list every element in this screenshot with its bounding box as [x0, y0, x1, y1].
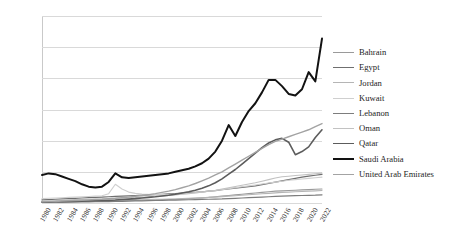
x-axis-tick-label: 2020: [304, 206, 319, 223]
legend-swatch: [333, 174, 354, 175]
legend-swatch: [333, 67, 354, 68]
x-axis-tick-label: 2000: [171, 206, 186, 223]
x-axis-tick-label: 1992: [118, 206, 133, 223]
x-axis-tick-label: 2012: [251, 206, 266, 223]
legend-item-label: Kuwait: [359, 94, 384, 103]
legend-swatch: [333, 143, 354, 144]
legend-item[interactable]: Lebanon: [333, 106, 457, 121]
x-axis-tick-label: 2022: [318, 206, 333, 223]
x-axis-tick-label: 1996: [144, 206, 159, 223]
x-axis-tick-label: 2016: [278, 206, 293, 223]
x-axis-tick-label: 1988: [91, 206, 106, 223]
series-line: [42, 39, 322, 188]
legend-item[interactable]: Saudi Arabia: [333, 151, 457, 166]
x-axis-tick-label: 1998: [158, 206, 173, 223]
x-axis-tick-label: 2008: [224, 206, 239, 223]
legend-swatch: [333, 113, 354, 114]
gridline: [42, 203, 322, 204]
x-axis-tick-label: 1984: [64, 206, 79, 223]
legend-item[interactable]: United Arab Emirates: [333, 167, 457, 182]
plot-wrapper: 1980198219841986198819901992199419961998…: [0, 0, 330, 252]
legend-item[interactable]: Oman: [333, 121, 457, 136]
chart-legend: BahrainEgyptJordanKuwaitLebanonOmanQatar…: [333, 45, 457, 182]
x-axis-tick-label: 1980: [38, 206, 53, 223]
legend-swatch: [333, 82, 354, 83]
legend-swatch: [333, 158, 354, 160]
legend-item[interactable]: Bahrain: [333, 45, 457, 60]
line-chart: 1980198219841986198819901992199419961998…: [0, 0, 457, 252]
legend-item-label: Egypt: [359, 63, 380, 72]
legend-item-label: Bahrain: [359, 48, 386, 57]
legend-item-label: Lebanon: [359, 109, 389, 118]
x-axis-tick-label: 1986: [78, 206, 93, 223]
x-axis-tick-label: 2018: [291, 206, 306, 223]
x-axis-tick-label: 2006: [211, 206, 226, 223]
legend-item[interactable]: Jordan: [333, 75, 457, 90]
x-axis-tick-label: 1982: [51, 206, 66, 223]
plot-area: 1980198219841986198819901992199419961998…: [42, 16, 322, 203]
legend-item[interactable]: Egypt: [333, 60, 457, 75]
x-axis-tick-label: 2014: [264, 206, 279, 223]
legend-item-label: Saudi Arabia: [359, 155, 404, 164]
legend-swatch: [333, 98, 354, 99]
legend-item[interactable]: Qatar: [333, 136, 457, 151]
legend-item[interactable]: Kuwait: [333, 91, 457, 106]
x-axis-tick-label: 2004: [198, 206, 213, 223]
legend-item-label: United Arab Emirates: [359, 170, 434, 179]
legend-item-label: Jordan: [359, 79, 382, 88]
legend-swatch: [333, 128, 354, 129]
series-line: [42, 124, 322, 202]
x-axis-tick-label: 2002: [184, 206, 199, 223]
legend-swatch: [333, 52, 354, 53]
x-axis-tick-label: 2010: [238, 206, 253, 223]
series-lines: [42, 16, 322, 203]
x-axis-tick-label: 1990: [104, 206, 119, 223]
legend-item-label: Qatar: [359, 139, 378, 148]
legend-item-label: Oman: [359, 124, 380, 133]
x-axis-tick-label: 1994: [131, 206, 146, 223]
